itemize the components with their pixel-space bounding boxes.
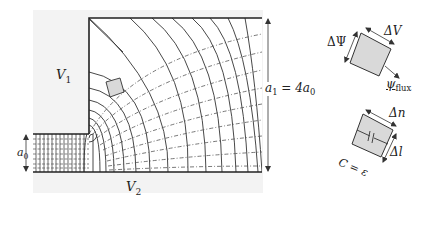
a0-label: a0 [17, 147, 28, 161]
v2-label: V2 [126, 180, 141, 197]
psi-flux-label: ψflux [386, 78, 411, 93]
delta-psi-label: ΔΨ [327, 36, 346, 48]
delta-v-label: ΔV [384, 25, 401, 37]
a1-equation-label: a1 = 4a0 [265, 82, 315, 97]
delta-l-label: Δl [390, 146, 403, 158]
delta-n-label: Δn [389, 107, 405, 119]
v1-label: V1 [56, 68, 71, 85]
